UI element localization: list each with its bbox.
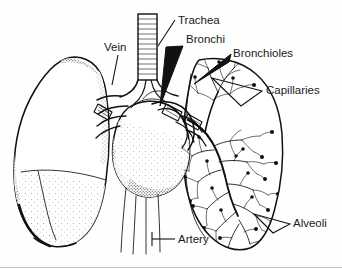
leader-vein <box>112 55 118 85</box>
left-lung <box>9 57 109 250</box>
leader-bronchi <box>160 46 183 106</box>
label-alveoli: Alveoli <box>293 217 327 229</box>
label-vein: Vein <box>104 41 126 53</box>
label-trachea: Trachea <box>178 14 220 26</box>
label-artery: Artery <box>178 233 209 245</box>
label-bronchioles: Bronchioles <box>233 47 293 59</box>
label-bronchi: Bronchi <box>186 33 225 45</box>
label-capillaries: Capillaries <box>266 84 320 96</box>
lung-anatomy-diagram: Trachea Bronchi Bronchioles Capillaries … <box>0 0 342 268</box>
leader-trachea <box>158 20 175 46</box>
heart <box>108 91 192 205</box>
